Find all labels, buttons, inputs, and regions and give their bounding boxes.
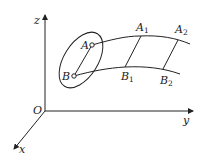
- segment-A1B1: [125, 36, 141, 67]
- label-B1: B1: [120, 70, 134, 84]
- label-B: B: [61, 70, 70, 83]
- label-A2: A2: [174, 23, 188, 37]
- segment-A2B2: [163, 40, 178, 69]
- streamline-top: [92, 36, 190, 45]
- x-axis-label: x: [19, 143, 26, 156]
- y-axis-label: y: [182, 114, 190, 127]
- cross-section-ellipse: [50, 25, 112, 96]
- diagram-svg: z O y x A B A1 A2 B1 B2: [0, 0, 202, 161]
- label-A1: A1: [135, 21, 149, 35]
- z-axis-label: z: [33, 14, 40, 27]
- point-A-marker: [90, 43, 94, 47]
- label-A: A: [80, 39, 89, 52]
- origin-label: O: [33, 104, 42, 117]
- point-B-marker: [72, 74, 76, 78]
- diagram-canvas: z O y x A B A1 A2 B1 B2: [0, 0, 202, 161]
- label-B2: B2: [159, 74, 173, 88]
